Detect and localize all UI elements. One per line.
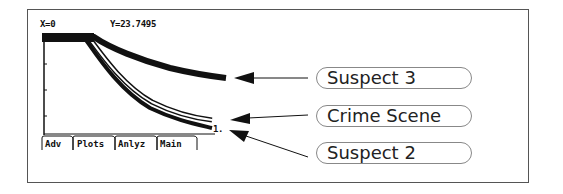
arrowhead-icon — [230, 113, 250, 124]
callout-suspect-2: Suspect 2 — [316, 142, 472, 164]
tab-anlyz[interactable]: Anlyz — [118, 139, 145, 149]
tab-main[interactable]: Main — [160, 139, 182, 149]
plot-start-block — [42, 33, 94, 42]
tab-plots[interactable]: Plots — [77, 139, 104, 149]
cursor-y-readout: Y=23.7495 — [110, 19, 156, 29]
callout-crime-scene: Crime Scene — [316, 105, 472, 127]
callout-arrows — [229, 72, 308, 157]
curve-suspect-3 — [44, 37, 226, 78]
tab-adv[interactable]: Adv — [45, 139, 62, 149]
arrowhead-icon — [229, 130, 249, 142]
cursor-x-readout: X=0 — [40, 19, 55, 29]
callout-suspect-3: Suspect 3 — [316, 67, 472, 89]
arrowhead-icon — [234, 72, 254, 84]
point-marker: 1. — [213, 124, 223, 134]
calculator-screen: X=0 Y=23.7495 1. Adv Plots Anlyz Main — [0, 0, 563, 194]
